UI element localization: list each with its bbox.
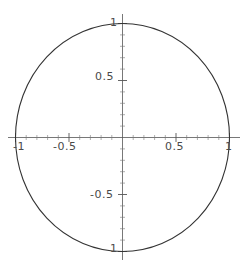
x-tick-label-pos-half: 0.5 xyxy=(165,141,184,152)
x-tick-label-pos-one: 1 xyxy=(225,141,233,152)
x-tick-label-neg-half: -0.5 xyxy=(53,141,76,152)
y-tick-label-neg-half: -0.5 xyxy=(90,189,113,200)
plot-canvas xyxy=(0,0,248,267)
y-tick-label-pos-one: 1 xyxy=(110,17,118,28)
x-tick-label-neg-one: -1 xyxy=(13,141,25,152)
y-tick-label-pos-half: 0.5 xyxy=(95,71,114,82)
plot-figure: -1 -0.5 0.5 1 1 0.5 -0.5 1 xyxy=(0,0,248,267)
y-tick-label-neg-one: 1 xyxy=(110,243,118,254)
